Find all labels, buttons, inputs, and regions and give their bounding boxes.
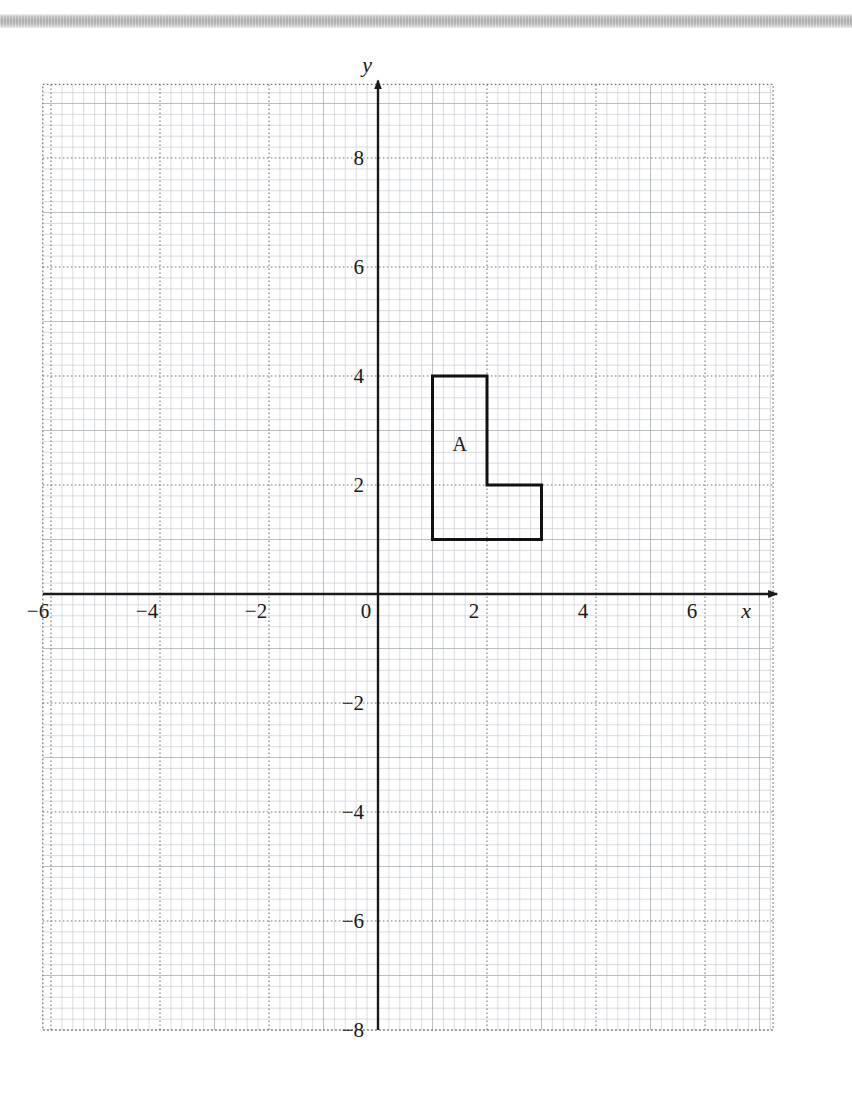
y-tick-label: −2 <box>342 691 364 715</box>
y-tick-label: 2 <box>354 473 365 497</box>
x-tick-label: −4 <box>136 599 159 623</box>
graph-svg: −6−4−202468642−2−4−6−8 xy A <box>0 0 852 1111</box>
y-tick-label: 8 <box>354 146 365 170</box>
x-tick-label: 0 <box>361 599 372 623</box>
y-tick-label: 4 <box>354 364 365 388</box>
x-axis-label: x <box>740 598 751 623</box>
shape-A <box>433 376 542 540</box>
y-tick-label: −6 <box>342 909 364 933</box>
axis-name-group: xy <box>360 52 751 623</box>
y-tick-label: −8 <box>342 1018 364 1042</box>
x-tick-label: 4 <box>578 599 589 623</box>
y-axis-label: y <box>360 52 372 77</box>
shape-label-A: A <box>453 433 468 455</box>
coordinate-grid-figure: −6−4−202468642−2−4−6−8 xy A <box>0 0 852 1111</box>
axis-lines <box>43 80 777 1030</box>
minor-gridlines <box>43 84 773 1030</box>
x-tick-label: 2 <box>469 599 480 623</box>
page-canvas: −6−4−202468642−2−4−6−8 xy A <box>0 0 852 1111</box>
y-tick-label: 6 <box>354 255 365 279</box>
x-tick-label: −2 <box>245 599 267 623</box>
x-tick-label: −6 <box>27 599 49 623</box>
plotted-shapes-group: A <box>433 376 542 540</box>
x-tick-label: 6 <box>687 599 698 623</box>
y-tick-label: −4 <box>342 800 365 824</box>
